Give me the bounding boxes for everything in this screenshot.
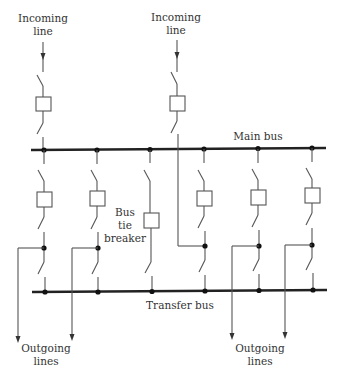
incoming-line-2-label-2: line [166, 24, 186, 36]
arrow-down-icon [16, 336, 21, 343]
arrow-down-icon [230, 333, 235, 340]
breaker-icon [144, 213, 159, 228]
busbar-diagram: Incoming line Incoming line Main bus Tra… [0, 0, 343, 382]
arrow-down-icon [175, 52, 180, 59]
arrow-down-icon [283, 332, 288, 339]
main-bus-label: Main bus [233, 130, 282, 142]
bus-tie-breaker [144, 147, 159, 294]
incoming-line-1-label-2: line [33, 25, 53, 37]
arrow-down-icon [41, 53, 46, 60]
breaker-icon [37, 192, 52, 207]
bus-tie-label-2: tie [118, 219, 132, 231]
incoming-line-1-label: Incoming [18, 12, 68, 24]
outgoing-left-label: Outgoing [21, 342, 71, 354]
transfer-bus [32, 290, 327, 292]
bus-tie-label-1: Bus [115, 206, 135, 218]
bus-tie-label-3: breaker [104, 232, 147, 244]
incoming-line-2-label: Incoming [151, 11, 201, 23]
incoming-line-2 [170, 40, 205, 246]
feeder-1 [16, 147, 53, 343]
breaker-icon [305, 188, 320, 203]
transfer-bus-label: Transfer bus [146, 299, 214, 311]
outgoing-left-label-2: lines [33, 355, 58, 367]
incoming-line-1 [36, 42, 51, 150]
breaker-icon [90, 191, 105, 206]
breaker-icon [170, 96, 185, 111]
feeder-5 [230, 146, 267, 340]
arrow-down-icon [70, 334, 75, 341]
outgoing-right-label: Outgoing [235, 342, 285, 354]
breaker-icon [251, 190, 266, 205]
feeder-6 [283, 145, 321, 339]
breaker-icon [36, 97, 51, 111]
outgoing-right-label-2: lines [247, 355, 272, 367]
feeder-2 [70, 147, 106, 341]
breaker-icon [197, 191, 212, 206]
feeder-4 [197, 146, 212, 293]
